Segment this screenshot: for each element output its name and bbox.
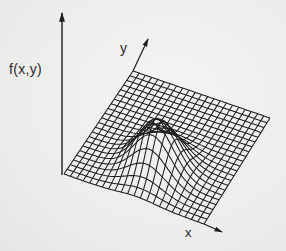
mesh-line (127, 80, 264, 127)
mesh-line (133, 71, 270, 118)
y-axis-label: y (120, 41, 127, 55)
mesh-line (64, 174, 204, 224)
surface-plot (0, 0, 286, 251)
mesh-line (70, 165, 210, 215)
mesh-line (130, 76, 267, 123)
wireframe-mesh (64, 71, 270, 224)
x-axis-line (204, 224, 222, 232)
y-axis-line (133, 39, 148, 71)
surface-plot-figure: f(x,y) y x (0, 0, 286, 251)
x-axis-label: x (185, 226, 192, 239)
mesh-line (124, 85, 261, 132)
z-axis-label: f(x,y) (9, 62, 42, 76)
mesh-line (67, 169, 207, 219)
